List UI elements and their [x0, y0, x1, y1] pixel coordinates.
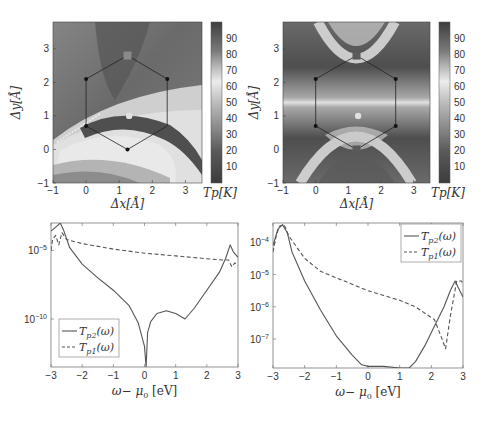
y-tick-label: 3: [273, 43, 279, 54]
x-tick-label: −3: [267, 371, 279, 382]
colorbar-tick-label: 50: [226, 97, 238, 108]
legend-entry: Tp1(ω): [421, 246, 456, 261]
colorbar-tick-label: 80: [226, 49, 238, 60]
y-tick-label: 10−5: [28, 244, 47, 256]
colorbar-tick-label: 70: [454, 65, 466, 76]
line-right-panel: −3−2−1012310−410−510−610−7ω− μ0 [eV] Tp2…: [250, 223, 466, 401]
legend-entry: Tp1(ω): [79, 341, 114, 356]
x-tick-label: 1: [397, 371, 403, 382]
colorbar-tick-label: 90: [454, 33, 466, 44]
y-tick-label: −1: [38, 178, 50, 189]
heatmap-left-panel: −10123−10123Δx[Å]Δy[Å] 10203040506070809…: [8, 22, 238, 211]
x-tick-label: −1: [277, 185, 289, 196]
colorbar-tick-label: 50: [454, 97, 466, 108]
square-marker-icon: [353, 145, 361, 153]
x-tick-label: 0: [365, 371, 371, 382]
heatmap-left-image: [53, 22, 202, 183]
line-left-panel: −3−2−1012310−510−10ω− μ0 [eV] Tp2(ω)Tp1(…: [24, 223, 241, 400]
x-axis-label: ω− μ0 [eV]: [112, 384, 178, 400]
colorbar-tick-label: 90: [226, 33, 238, 44]
colorbar-tick-label: 70: [226, 65, 238, 76]
x-tick-label: 0: [142, 370, 148, 381]
vertex-dot-icon: [84, 124, 88, 128]
y-tick-label: 10−7: [250, 333, 269, 345]
x-tick-label: −3: [45, 370, 57, 381]
x-tick-label: 0: [83, 185, 89, 196]
x-tick-label: −2: [299, 371, 311, 382]
vertex-dot-icon: [394, 77, 398, 81]
line-right-legend: Tp2(ω)Tp1(ω): [401, 224, 461, 262]
y-tick-label: 2: [273, 77, 279, 88]
y-tick-label: 1: [273, 110, 279, 121]
x-tick-label: −1: [108, 370, 120, 381]
square-marker-icon: [353, 52, 361, 60]
vertex-dot-icon: [314, 77, 318, 81]
x-axis-label: Δx[Å]: [110, 196, 145, 211]
square-marker-icon: [124, 52, 132, 60]
x-tick-label: 2: [378, 185, 384, 196]
colorbar-tick-label: 10: [454, 161, 466, 172]
x-axis-label: ω− μ0 [eV]: [335, 385, 401, 401]
x-tick-label: 2: [204, 370, 210, 381]
colorbar-tick-label: 30: [454, 129, 466, 140]
x-tick-label: 0: [313, 185, 319, 196]
x-tick-label: 1: [173, 370, 179, 381]
y-tick-label: −1: [268, 178, 280, 189]
legend-entry: Tp2(ω): [79, 325, 114, 340]
y-tick-label: 10−5: [250, 269, 269, 281]
colorbar-tick-label: 10: [226, 161, 238, 172]
x-tick-label: −2: [76, 370, 88, 381]
y-tick-label: 10−6: [250, 301, 269, 313]
x-tick-label: 2: [150, 185, 156, 196]
line-left-legend: Tp2(ω)Tp1(ω): [59, 319, 119, 357]
y-tick-label: 0: [273, 144, 279, 155]
y-tick-label: 2: [43, 77, 49, 88]
x-tick-label: 1: [346, 185, 352, 196]
colorbar-tick-label: 20: [454, 145, 466, 156]
x-axis-label: Δx[Å]: [339, 196, 374, 211]
heatmap-right-image: [283, 22, 430, 183]
colorbar-tick-label: 40: [454, 113, 466, 124]
x-tick-label: 3: [235, 370, 241, 381]
legend-entry: Tp2(ω): [421, 230, 456, 245]
colorbar-tick-label: 20: [226, 145, 238, 156]
colorbar-left: [211, 22, 222, 183]
colorbar-tick-label: 80: [454, 49, 466, 60]
heatmap-right-panel: −10123−10123Δx[Å]Δy[Å] 10203040506070809…: [246, 22, 466, 211]
x-tick-label: 1: [116, 185, 122, 196]
y-tick-label: 10−10: [24, 313, 47, 325]
circle-marker-icon: [126, 113, 132, 119]
y-tick-label: 10−4: [250, 236, 269, 248]
y-axis-label: Δy[Å]: [8, 85, 23, 120]
vertex-dot-icon: [126, 147, 130, 151]
circle-marker-icon: [355, 113, 361, 119]
x-tick-label: 2: [429, 371, 435, 382]
colorbar-tick-label: 60: [454, 81, 466, 92]
colorbar-tick-label: 30: [226, 129, 238, 140]
vertex-dot-icon: [165, 77, 169, 81]
vertex-dot-icon: [394, 124, 398, 128]
x-tick-label: −1: [331, 371, 343, 382]
colorbar-label: Tp[K]: [431, 186, 465, 200]
colorbar-label: Tp[K]: [203, 186, 237, 200]
x-tick-label: 3: [183, 185, 189, 196]
figure: −10123−10123Δx[Å]Δy[Å] 10203040506070809…: [0, 0, 489, 422]
x-tick-label: 3: [411, 185, 417, 196]
colorbar-tick-label: 60: [226, 81, 238, 92]
y-tick-label: 0: [43, 144, 49, 155]
y-tick-label: 1: [43, 110, 49, 121]
y-axis-label: Δy[Å]: [246, 85, 261, 120]
x-tick-label: 3: [460, 371, 466, 382]
colorbar-tick-label: 40: [226, 113, 238, 124]
x-tick-label: −1: [47, 185, 59, 196]
y-tick-label: 3: [43, 43, 49, 54]
vertex-dot-icon: [84, 77, 88, 81]
vertex-dot-icon: [314, 124, 318, 128]
colorbar-right: [439, 22, 450, 183]
